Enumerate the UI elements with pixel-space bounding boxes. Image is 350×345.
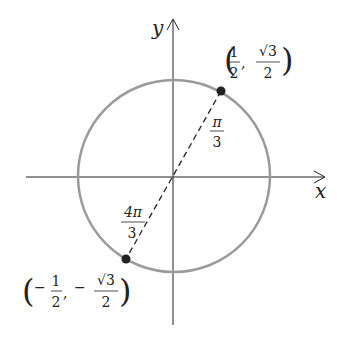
svg-text:,: ,	[63, 285, 67, 301]
svg-text:−: −	[34, 279, 46, 295]
coord-label-4pi-over-3: ( − 1 2 , − √3 2 )	[22, 272, 131, 310]
unit-circle	[78, 80, 270, 272]
x-axis-label: x	[315, 179, 326, 203]
svg-text:1: 1	[230, 44, 239, 60]
svg-text:−: −	[74, 279, 86, 295]
point-4pi-over-3	[122, 255, 131, 264]
svg-text:4π: 4π	[123, 204, 143, 220]
svg-text:2: 2	[264, 65, 273, 81]
svg-text:2: 2	[230, 65, 239, 81]
svg-text:π: π	[211, 114, 222, 130]
svg-text:2: 2	[102, 294, 111, 310]
angle-label-pi-over-3: π 3	[210, 114, 224, 150]
svg-text:): )	[119, 272, 131, 310]
angle-label-4pi-over-3: 4π 3	[121, 204, 145, 241]
svg-text:,: ,	[241, 55, 245, 71]
svg-text:(: (	[22, 272, 34, 310]
svg-text:√3: √3	[97, 272, 115, 288]
coord-label-pi-over-3: ( 1 2 , √3 2 )	[224, 41, 293, 81]
svg-text:1: 1	[52, 273, 61, 289]
svg-text:3: 3	[128, 225, 137, 241]
svg-text:): )	[281, 41, 293, 79]
svg-text:3: 3	[213, 134, 222, 150]
svg-text:2: 2	[52, 294, 61, 310]
svg-text:√3: √3	[259, 43, 277, 59]
point-pi-over-3	[217, 87, 226, 96]
unit-circle-diagram: y x ( 1 2 , √3 2 ) π 3 4π 3 ( − 1 2 , − …	[0, 0, 350, 345]
y-axis-label: y	[151, 16, 164, 40]
